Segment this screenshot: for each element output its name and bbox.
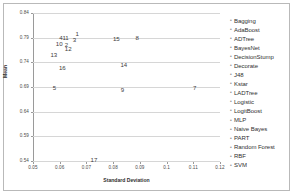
data-point-label: 7 (193, 84, 196, 91)
legend-item-label: Decorate (234, 63, 258, 69)
y-tick-label: 0.59 (3, 133, 29, 138)
gridline (33, 161, 220, 162)
x-tick-mark (113, 162, 114, 164)
data-point-label: 17 (91, 155, 98, 162)
data-point-label: 8 (135, 34, 138, 41)
x-tick-label: 0.09 (128, 165, 152, 170)
x-tick-mark (86, 162, 87, 164)
x-tick-mark (60, 162, 61, 164)
y-tick-label: 0.84 (3, 10, 29, 15)
legend-item[interactable]: •ADTree (228, 34, 292, 43)
y-axis-title: Mean (2, 65, 8, 78)
x-tick-mark (220, 162, 221, 164)
x-tick-label: 0.11 (181, 165, 205, 170)
y-tick-mark (31, 38, 33, 39)
gridline (33, 112, 220, 113)
legend-item[interactable]: •Bagging (228, 16, 292, 25)
legend-item-label: DecisionStump (234, 54, 274, 60)
legend-item-label: J48 (234, 72, 244, 78)
x-tick-mark (193, 162, 194, 164)
y-tick-mark (31, 87, 33, 88)
y-tick-label: 0.69 (3, 84, 29, 89)
x-tick-mark (33, 162, 34, 164)
legend-item[interactable]: •PART (228, 134, 292, 143)
legend-item[interactable]: •MLP (228, 116, 292, 125)
data-point-label: 9 (121, 85, 124, 92)
legend-item[interactable]: •LADTree (228, 88, 292, 97)
y-tick-mark (31, 112, 33, 113)
legend-item-label: Logistic (234, 99, 254, 105)
legend: •Bagging•AdaBoost•ADTree•BayesNet•Decisi… (228, 16, 292, 170)
y-tick-label: 0.74 (3, 59, 29, 64)
legend-item-label: BayesNet (234, 45, 260, 51)
legend-item-label: MLP (234, 117, 246, 123)
y-tick-mark (31, 13, 33, 14)
legend-item-label: PART (234, 135, 249, 141)
legend-item[interactable]: •J48 (228, 70, 292, 79)
legend-item[interactable]: •AdaBoost (228, 25, 292, 34)
legend-item[interactable]: •DecisionStump (228, 52, 292, 61)
legend-item[interactable]: •Naive Bayes (228, 125, 292, 134)
legend-item[interactable]: •LogitBoost (228, 106, 292, 115)
legend-item-label: LogitBoost (234, 108, 262, 114)
y-tick-label: 0.79 (3, 35, 29, 40)
data-point-label: 5 (53, 84, 56, 91)
legend-item[interactable]: •Kstar (228, 79, 292, 88)
legend-item-label: SVM (234, 162, 247, 168)
legend-item-label: ADTree (234, 36, 254, 42)
legend-item[interactable]: •SVM (228, 161, 292, 170)
x-tick-mark (140, 162, 141, 164)
gridline (33, 136, 220, 137)
legend-item[interactable]: •Decorate (228, 61, 292, 70)
legend-item-label: Naive Bayes (234, 126, 267, 132)
gridline (33, 13, 220, 14)
x-tick-label: 0.07 (74, 165, 98, 170)
legend-item-label: Bagging (234, 18, 256, 24)
legend-item[interactable]: •Random Forest (228, 143, 292, 152)
x-axis-title: Standard Deviation (33, 177, 220, 183)
legend-item-label: AdaBoost (234, 27, 260, 33)
y-tick-mark (31, 136, 33, 137)
y-tick-label: 0.64 (3, 109, 29, 114)
x-tick-label: 0.08 (101, 165, 125, 170)
legend-item[interactable]: •Logistic (228, 97, 292, 106)
data-point-label: 12 (65, 45, 72, 52)
legend-item-label: Random Forest (234, 144, 275, 150)
legend-item-label: Kstar (234, 81, 248, 87)
data-point-label: 13 (50, 50, 57, 57)
x-tick-label: 0.05 (21, 165, 45, 170)
data-point-label: 11 (62, 33, 68, 40)
legend-item[interactable]: •BayesNet (228, 43, 292, 52)
legend-item-label: LADTree (234, 90, 257, 96)
x-tick-label: 0.06 (48, 165, 72, 170)
data-point-label: 3 (73, 36, 76, 43)
data-point-label: 16 (59, 64, 66, 71)
x-tick-label: 0.1 (155, 165, 179, 170)
y-tick-mark (31, 62, 33, 63)
x-tick-mark (167, 162, 168, 164)
legend-item-label: RBF (234, 153, 246, 159)
y-tick-label: 0.54 (3, 158, 29, 163)
data-point-label: 14 (120, 60, 127, 67)
legend-item[interactable]: •RBF (228, 152, 292, 161)
scatter-chart: Mean Standard Deviation 0.840.790.740.69… (0, 0, 294, 195)
data-point-label: 15 (113, 34, 120, 41)
